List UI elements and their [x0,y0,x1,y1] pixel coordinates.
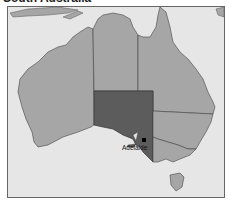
map-title: South Australia [3,0,91,5]
city-label-adelaide: Adelaide [122,144,147,151]
region-western-australia [18,27,94,147]
region-northern-territory [93,13,138,91]
australia-map [8,7,224,197]
map-frame: Adelaide [7,6,225,198]
island [216,7,224,17]
region-tasmania [170,173,184,191]
adelaide-marker-icon [142,138,146,142]
region-south-australia [94,91,153,162]
